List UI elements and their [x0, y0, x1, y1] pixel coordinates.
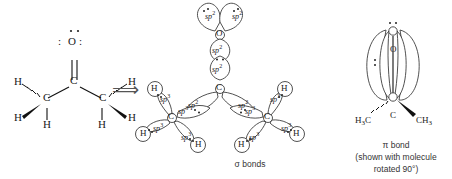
left-methyl-carbon-label: C — [168, 112, 174, 121]
pi-left-hashed-wedge — [371, 101, 388, 113]
left-methyl-orbital-label: sp3 — [181, 131, 191, 142]
left-methyl-orbital-label: sp3 — [178, 105, 188, 116]
oxygen-lone-pair-orbital-label: sp2 — [205, 10, 215, 21]
left-methyl-orbital-label: sp3 — [153, 122, 163, 133]
right-methyl-carbon-label: C — [264, 112, 270, 121]
pi-bond-caption-line2: (shown with molecule — [340, 153, 452, 162]
sigma-bond-dot — [157, 94, 159, 96]
hydrogen-label: H — [195, 140, 202, 149]
sigma-bond-dot — [216, 59, 218, 61]
oxygen-lone-pair-dot — [70, 30, 72, 32]
pi-oxygen-nucleus — [389, 27, 397, 35]
oxygen-left-lone-pair: : — [58, 36, 61, 47]
sigma-bond-dot — [240, 112, 242, 114]
hydrogen-label: H — [140, 129, 147, 138]
lewis-right-methyl-carbon-label: C — [99, 92, 106, 103]
left-methyl-solid-wedge — [22, 104, 41, 119]
sigma-bond-orbital-diagram — [150, 0, 360, 179]
oxygen-right-lone-pair: : — [79, 36, 82, 47]
hydrogen-label: H — [151, 84, 158, 93]
carbonyl-to-right-methyl-bond — [80, 87, 101, 98]
pi-right-substituent-label: CH3 — [416, 116, 432, 127]
carbonyl-to-left-methyl-bond — [48, 87, 69, 98]
oxygen-lone-pair-dot — [77, 30, 79, 32]
implies-arrow: ⟹ — [112, 80, 139, 99]
hydrogen-label: H — [238, 140, 245, 149]
carbonyl-carbon-orbital-label: sp2 — [188, 99, 198, 110]
lone-pair-dot — [389, 22, 391, 24]
oxygen-lone-pair-orbital-label: sp2 — [232, 10, 242, 21]
right-methyl-orbital-label: sp3 — [270, 93, 280, 104]
lewis-carbonyl-carbon-label: C — [70, 75, 77, 86]
lewis-hydrogen-label: H — [128, 112, 136, 123]
lewis-hydrogen-label: H — [14, 112, 22, 123]
lewis-hydrogen-label: H — [43, 119, 51, 130]
lewis-hydrogen-label: H — [98, 119, 106, 130]
sigma-oxygen-label: O — [216, 29, 223, 38]
pi-bond-caption-line1: π bond — [345, 141, 447, 150]
pi-right-solid-wedge — [397, 100, 416, 117]
right-methyl-solid-wedge — [108, 104, 127, 119]
pi-bond-caption-line3: rotated 90°) — [345, 165, 447, 174]
right-methyl-orbital-label: sp3 — [249, 131, 259, 142]
lewis-left-methyl-carbon-label: C — [43, 92, 50, 103]
sigma-carbonyl-carbon-label: C — [216, 83, 222, 92]
sigma-bond-dot — [246, 140, 248, 142]
sigma-bonds-caption: σ bonds — [200, 160, 300, 169]
right-methyl-orbital-label: sp3 — [245, 105, 255, 116]
lewis-hydrogen-label: H — [14, 76, 22, 87]
sigma-bond-dot — [222, 59, 224, 61]
carbonyl-carbon-orbital-label: sp2 — [212, 63, 222, 74]
left-methyl-hashed-wedge — [22, 84, 40, 97]
sigma-bond-dot — [148, 129, 150, 131]
hydrogen-label: H — [281, 84, 288, 93]
sigma-bond-dot — [198, 112, 200, 114]
oxygen-sigma-orbital-label: sp2 — [212, 44, 222, 55]
sigma-bond-dot — [281, 94, 283, 96]
pi-carbon-label: C — [390, 111, 396, 120]
right-methyl-orbital-label: sp3 — [281, 122, 291, 133]
hydrogen-label: H — [293, 129, 300, 138]
pi-left-substituent-label: H3C — [355, 116, 371, 127]
lone-pair-dot — [374, 64, 376, 66]
lone-pair-dot — [395, 22, 397, 24]
sigma-bond-dot — [192, 140, 194, 142]
figure-canvas: O : : C C C H H H H H H ⟹ — [0, 0, 452, 179]
left-methyl-orbital-label: sp3 — [160, 93, 170, 104]
lewis-oxygen-label: O — [68, 36, 76, 47]
pi-oxygen-label: O — [390, 45, 397, 54]
lone-pair-dot — [374, 59, 376, 61]
pi-carbon-nucleus — [389, 93, 397, 101]
